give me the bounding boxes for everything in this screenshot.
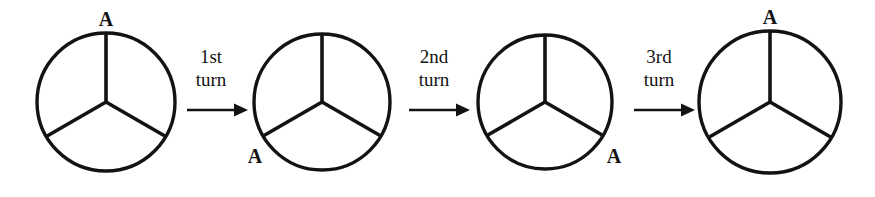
circle-group-3: A [478, 35, 622, 169]
arrow-head-2 [456, 104, 470, 117]
figure-canvas: A 1st turn A 2nd turn [0, 0, 875, 197]
turn-label-3-line1: 3rd [646, 46, 672, 67]
circle-group-4: A [699, 6, 841, 173]
spoke-3-lower-right [545, 102, 603, 136]
rotation-sequence-diagram: A 1st turn A 2nd turn [0, 0, 875, 197]
turn-label-2-line1: 2nd [420, 46, 449, 67]
arrow-head-3 [681, 104, 695, 117]
spoke-2-lower-right [322, 102, 381, 136]
transition-group-3: 3rd turn [634, 46, 695, 117]
circle-group-2: A [248, 34, 390, 170]
circle-group-1: A [37, 8, 175, 171]
arrow-head-1 [234, 104, 248, 117]
transition-group-1: 1st turn [187, 46, 248, 117]
transition-group-2: 2nd turn [409, 46, 470, 117]
spoke-3-lower-left [487, 102, 545, 136]
spoke-1-lower-right [106, 102, 166, 137]
spoke-1-lower-left [46, 102, 106, 137]
turn-label-1-line1: 1st [200, 46, 223, 67]
vertex-label-circle-1: A [99, 8, 114, 30]
vertex-label-circle-2: A [248, 145, 263, 167]
vertex-label-circle-4: A [763, 6, 778, 28]
spoke-4-lower-right [770, 102, 831, 138]
turn-label-1-line2: turn [196, 69, 227, 90]
spoke-2-lower-left [263, 102, 322, 136]
turn-label-3-line2: turn [644, 69, 675, 90]
turn-label-2-line2: turn [419, 69, 450, 90]
spoke-4-lower-left [709, 102, 770, 138]
vertex-label-circle-3: A [607, 145, 622, 167]
